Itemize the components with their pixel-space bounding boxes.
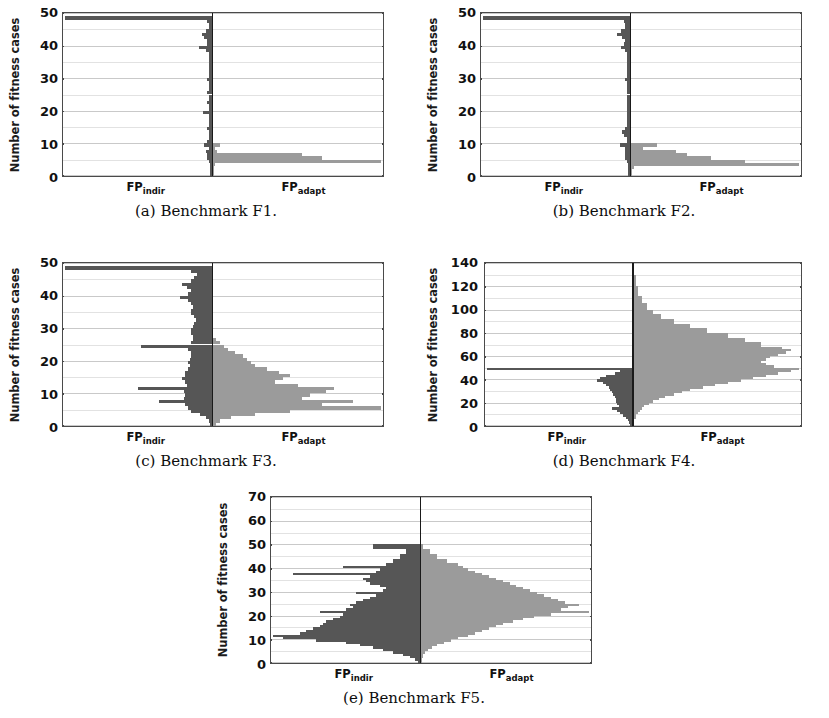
y-tick-label: 10 — [458, 138, 476, 151]
gridline — [63, 143, 383, 144]
histogram-bar — [630, 163, 799, 166]
y-tick-label: 50 — [40, 256, 58, 269]
axis-tick-mark — [590, 544, 592, 545]
y-tick-label: 40 — [248, 562, 266, 575]
axis-tick-mark — [270, 639, 272, 640]
axis-label-fp-indir: FPindir — [547, 430, 585, 446]
y-tick-label: 50 — [248, 538, 266, 551]
axis-tick-mark — [480, 111, 482, 112]
axis-tick-mark — [800, 356, 802, 357]
axis-tick-mark — [484, 310, 486, 311]
axis-tick-mark — [800, 111, 802, 112]
axis-tick-mark — [62, 175, 64, 176]
panel-e: Number of fitness cases 010203040506070 … — [214, 492, 614, 718]
axis-tick-mark — [62, 111, 64, 112]
axis-tick-mark — [270, 662, 272, 663]
axis-label-fp-adapt: FPadapt — [281, 430, 325, 446]
panel-a-caption: (a) Benchmark F1. — [6, 202, 406, 220]
panel-d-caption: (d) Benchmark F4. — [424, 452, 824, 470]
gridline — [481, 46, 801, 47]
gridline — [63, 175, 383, 176]
y-tick-label: 0 — [49, 171, 58, 184]
y-tick-label: 40 — [40, 39, 58, 52]
axis-tick-mark — [800, 425, 802, 426]
y-tick-label: 10 — [248, 634, 266, 647]
y-tick-label: 40 — [458, 39, 476, 52]
panel-d-plot — [484, 262, 802, 427]
gridline-minor — [271, 533, 591, 534]
gridline — [485, 425, 801, 426]
gridline — [485, 286, 801, 287]
axis-tick-mark — [484, 379, 486, 380]
panel-a-yticks: 01020304050 — [28, 12, 62, 177]
panel-e-plot — [270, 496, 592, 664]
y-tick-label: 100 — [451, 303, 478, 316]
figure-benchmark-histograms: Number of fitness cases 01020304050 FPin… — [0, 0, 829, 718]
axis-tick-mark — [484, 403, 486, 404]
gridline-minor — [63, 95, 383, 96]
y-tick-label: 20 — [40, 355, 58, 368]
axis-tick-mark — [590, 616, 592, 617]
panel-b-axis-labels: FPindir FPadapt — [480, 180, 802, 200]
axis-tick-mark — [382, 361, 384, 362]
axis-tick-mark — [62, 78, 64, 79]
axis-tick-mark — [484, 286, 486, 287]
gridline — [481, 175, 801, 176]
y-tick-label: 60 — [460, 350, 478, 363]
axis-tick-mark — [480, 175, 482, 176]
panel-a-ylabel: Number of fitness cases — [6, 12, 24, 177]
y-tick-label: 20 — [40, 105, 58, 118]
axis-tick-mark — [270, 568, 272, 569]
axis-tick-mark — [270, 521, 272, 522]
gridline — [481, 78, 801, 79]
gridline-minor — [63, 279, 383, 280]
histogram-bar — [65, 266, 212, 269]
panel-a-plot — [62, 12, 384, 177]
axis-tick-mark — [590, 662, 592, 663]
y-tick-label: 10 — [40, 138, 58, 151]
axis-tick-mark — [382, 143, 384, 144]
gridline-minor — [271, 651, 591, 652]
center-divider-line — [630, 13, 632, 176]
axis-tick-mark — [270, 592, 272, 593]
axis-tick-mark — [484, 356, 486, 357]
axis-tick-mark — [62, 46, 64, 47]
axis-label-fp-indir: FPindir — [126, 180, 164, 196]
axis-tick-mark — [800, 310, 802, 311]
axis-tick-mark — [382, 46, 384, 47]
gridline — [63, 263, 383, 264]
panel-c-axis-labels: FPindir FPadapt — [62, 430, 384, 450]
panel-c-caption: (c) Benchmark F3. — [6, 452, 406, 470]
axis-tick-mark — [62, 328, 64, 329]
histogram-bar — [487, 368, 632, 370]
center-divider-line — [212, 263, 214, 426]
y-tick-label: 0 — [469, 421, 478, 434]
axis-tick-mark — [800, 143, 802, 144]
y-tick-label: 60 — [248, 514, 266, 527]
panel-a: Number of fitness cases 01020304050 FPin… — [6, 8, 406, 233]
axis-label-fp-indir: FPindir — [544, 180, 582, 196]
axis-tick-mark — [480, 13, 482, 14]
panel-a-axis-labels: FPindir FPadapt — [62, 180, 384, 200]
histogram-bar — [483, 16, 630, 19]
axis-label-fp-adapt: FPadapt — [700, 430, 744, 446]
gridline — [485, 263, 801, 264]
axis-tick-mark — [800, 333, 802, 334]
axis-tick-mark — [800, 286, 802, 287]
histogram-bar — [212, 160, 381, 163]
gridline — [63, 111, 383, 112]
axis-tick-mark — [382, 296, 384, 297]
y-tick-label: 50 — [40, 6, 58, 19]
axis-tick-mark — [590, 592, 592, 593]
axis-tick-mark — [62, 13, 64, 14]
axis-tick-mark — [382, 78, 384, 79]
axis-tick-mark — [62, 361, 64, 362]
gridline-minor — [271, 509, 591, 510]
y-tick-label: 120 — [451, 279, 478, 292]
axis-tick-mark — [800, 78, 802, 79]
y-tick-label: 70 — [248, 490, 266, 503]
axis-tick-mark — [484, 333, 486, 334]
y-tick-label: 10 — [40, 388, 58, 401]
panel-d-yticks: 020406080100120140 — [438, 262, 482, 427]
panel-c-ylabel: Number of fitness cases — [6, 262, 24, 427]
